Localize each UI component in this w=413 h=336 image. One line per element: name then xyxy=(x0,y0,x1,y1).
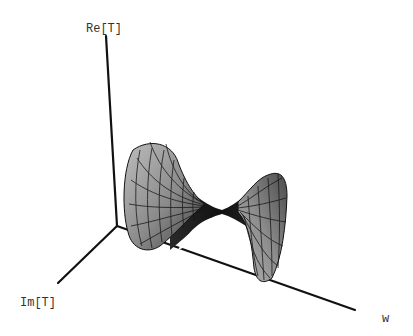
im-axis-line xyxy=(58,226,117,283)
surface-mesh xyxy=(124,142,287,282)
im-axis-label: Im[T] xyxy=(20,296,56,310)
re-axis-line xyxy=(106,36,117,226)
w-axis-label: w xyxy=(382,312,389,326)
plot-canvas: Re[T] Im[T] w xyxy=(0,0,413,336)
axes xyxy=(58,36,355,310)
plot-svg xyxy=(0,0,413,336)
re-axis-label: Re[T] xyxy=(86,22,122,36)
